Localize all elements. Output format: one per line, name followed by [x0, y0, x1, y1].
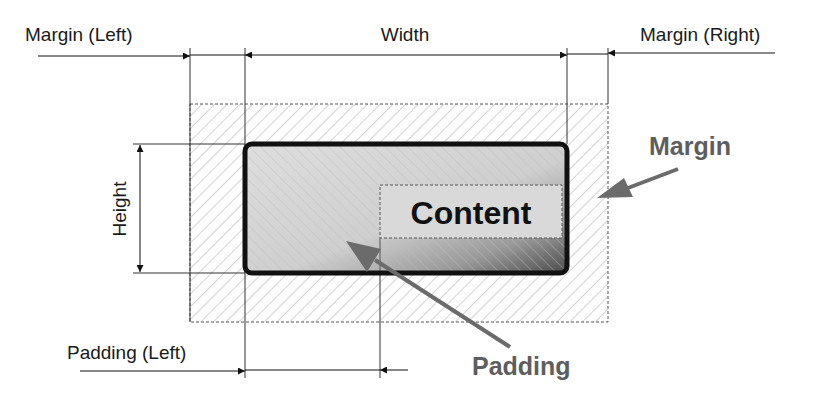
margin-callout-label: Margin [649, 132, 731, 160]
width-label: Width [381, 24, 430, 45]
margin-right-label: Margin (Right) [640, 24, 760, 45]
margin-callout-arrow [597, 169, 678, 198]
padding-left-label: Padding (Left) [67, 342, 186, 363]
padding-callout-label: Padding [472, 352, 571, 380]
content-label: Content [411, 195, 532, 231]
box-model-diagram: Content Margin (Left) Width Margin (Righ… [0, 0, 823, 405]
height-label: Height [109, 181, 130, 237]
margin-left-label: Margin (Left) [25, 24, 133, 45]
